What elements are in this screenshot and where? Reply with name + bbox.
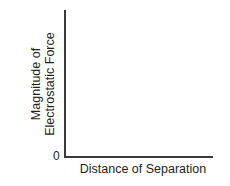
y-axis-label-line-1: Magnitude of <box>29 24 43 144</box>
origin-label: 0 <box>53 150 60 162</box>
y-axis-label-line-2: Electrostatic Force <box>43 24 57 144</box>
y-axis-label: Magnitude of Electrostatic Force <box>29 24 59 144</box>
y-axis-line <box>64 10 66 157</box>
x-axis-line <box>64 156 213 158</box>
x-axis-label: Distance of Separation <box>73 162 213 176</box>
